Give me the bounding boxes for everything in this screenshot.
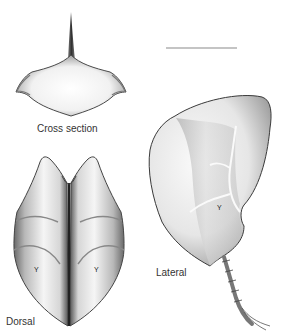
dorsal-left-valve: [14, 157, 68, 326]
cross-section-label: Cross section: [37, 123, 98, 134]
lateral-label: Lateral: [156, 267, 187, 278]
lateral-view: Y: [149, 96, 271, 330]
dorsal-label: Dorsal: [6, 316, 35, 327]
dorsal-eyespot-right: Y: [94, 266, 99, 273]
dorsal-right-valve: [70, 157, 124, 326]
figure-illustration: Y Y Y: [0, 0, 286, 335]
cross-section-body: [16, 55, 126, 116]
cross-section-spine: [68, 12, 75, 60]
lateral-eyespot: Y: [217, 204, 222, 211]
dorsal-eyespot-left: Y: [34, 266, 39, 273]
cross-section-view: [16, 12, 126, 116]
dorsal-view: Y Y: [14, 157, 124, 326]
